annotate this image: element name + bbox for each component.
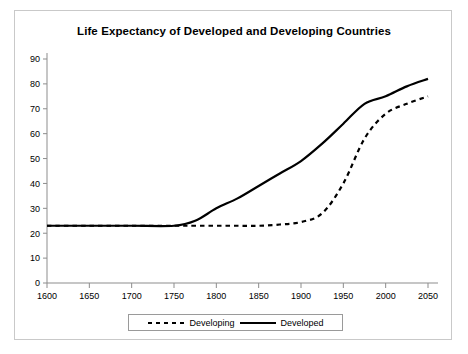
data-line-developed xyxy=(47,79,428,226)
x-axis-tick-label: 2050 xyxy=(418,291,438,301)
y-axis-tick-label: 50 xyxy=(30,154,40,164)
chart-legend: Developing Developed xyxy=(128,314,343,331)
dashed-line-icon xyxy=(147,318,185,328)
x-axis-tick-label: 1800 xyxy=(206,291,226,301)
x-axis-tick-label: 1900 xyxy=(291,291,311,301)
data-series-group xyxy=(47,79,428,226)
x-axis-tick-label: 1600 xyxy=(37,291,57,301)
x-axis: 1600165017001750180018501900195020002050 xyxy=(37,283,438,301)
x-axis-tick-label: 1950 xyxy=(333,291,353,301)
y-axis: 0102030405060708090 xyxy=(30,53,47,288)
y-axis-tick-label: 90 xyxy=(30,54,40,64)
x-axis-tick-label: 1850 xyxy=(249,291,269,301)
legend-label-developed: Developed xyxy=(281,318,324,328)
x-axis-tick-label: 1700 xyxy=(122,291,142,301)
data-line-developing xyxy=(47,96,428,226)
solid-line-icon xyxy=(239,318,277,328)
y-axis-tick-label: 10 xyxy=(30,253,40,263)
y-axis-tick-label: 80 xyxy=(30,79,40,89)
chart-container: Life Expectancy of Developed and Develop… xyxy=(14,10,452,340)
legend-label-developing: Developing xyxy=(189,318,234,328)
x-axis-tick-label: 1650 xyxy=(79,291,99,301)
y-axis-tick-label: 30 xyxy=(30,204,40,214)
legend-item-developed: Developed xyxy=(239,318,324,328)
y-axis-tick-label: 60 xyxy=(30,129,40,139)
y-axis-tick-label: 70 xyxy=(30,104,40,114)
y-axis-tick-label: 20 xyxy=(30,229,40,239)
x-axis-tick-label: 2000 xyxy=(376,291,396,301)
legend-item-developing: Developing xyxy=(147,318,234,328)
x-axis-tick-label: 1750 xyxy=(164,291,184,301)
y-axis-tick-label: 0 xyxy=(35,278,40,288)
y-axis-tick-label: 40 xyxy=(30,179,40,189)
chart-plot-area: 0102030405060708090 16001650170017501800… xyxy=(15,11,453,341)
